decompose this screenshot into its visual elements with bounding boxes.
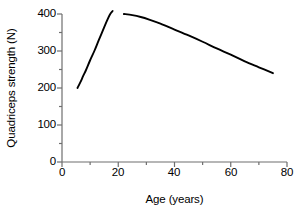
- plot-area: [0, 0, 308, 217]
- data-series-group: [77, 11, 272, 88]
- x-axis-ticks: [62, 162, 287, 167]
- data-line-decline-phase: [124, 14, 273, 73]
- y-axis-ticks: [57, 14, 62, 162]
- data-line-growth-phase: [77, 11, 112, 88]
- axes: [62, 14, 287, 162]
- chart-figure: Quadriceps strength (N) Age (years) 0 10…: [0, 0, 308, 217]
